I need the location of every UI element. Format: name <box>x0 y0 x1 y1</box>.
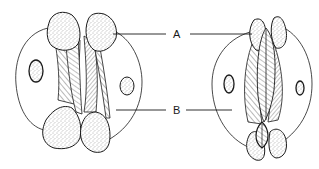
guard-cell-bulb-closed-top-right <box>271 17 286 49</box>
open-stoma <box>16 12 142 152</box>
guard-cell-bulb-top-right <box>86 13 117 51</box>
label-b: B <box>173 105 180 116</box>
nucleus-closed-right <box>296 81 304 95</box>
guard-cell-bulb-top-left <box>47 12 80 50</box>
nucleus-left <box>29 60 43 82</box>
label-a: A <box>173 29 180 40</box>
guard-cell-bulb-closed-bottom-right <box>269 129 287 158</box>
closed-stoma <box>212 17 312 161</box>
guard-cell-bulb-bottom-right <box>81 112 111 152</box>
stomata-diagram <box>0 0 319 169</box>
guard-cell-bulb-bottom-left <box>43 107 81 149</box>
nucleus-closed-left <box>224 75 234 93</box>
nucleus-right <box>120 77 134 95</box>
